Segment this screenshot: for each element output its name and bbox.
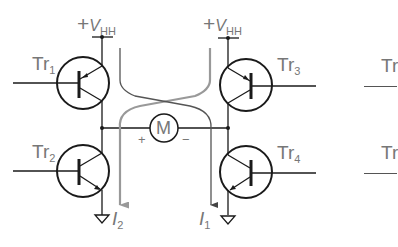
- label-tr3: Tr3: [277, 55, 300, 77]
- motor-label: M: [156, 119, 171, 137]
- transistor-tr4: [220, 146, 316, 215]
- label-tr4: Tr4: [277, 143, 300, 165]
- ground-right-icon: [221, 216, 235, 224]
- partial-label-tr-bottom: Tr: [381, 143, 398, 162]
- supply-label-right: +VHH: [203, 13, 242, 37]
- motor-minus-terminal: −: [182, 133, 190, 146]
- current-label-i1: I1: [199, 209, 210, 231]
- partial-base-wire-top: [364, 86, 397, 87]
- supply-label-left: +VHH: [77, 13, 116, 37]
- ground-left-icon: [95, 215, 109, 223]
- current-label-i2: I2: [112, 209, 123, 231]
- label-tr2: Tr2: [32, 142, 55, 164]
- supply-rail-left: [92, 35, 113, 60]
- transistor-tr1: [13, 57, 109, 145]
- transistor-tr2: [13, 145, 109, 215]
- transistor-tr3: [220, 59, 316, 150]
- supply-rail-right: [218, 36, 239, 62]
- partial-label-tr-top: Tr: [381, 56, 398, 75]
- partial-base-wire-bottom: [364, 173, 397, 174]
- label-tr1: Tr1: [32, 54, 55, 76]
- motor-plus-terminal: +: [138, 133, 146, 146]
